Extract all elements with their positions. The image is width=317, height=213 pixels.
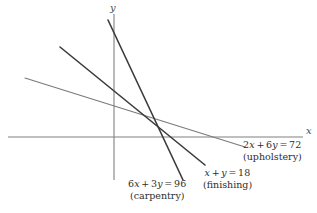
- annotation-upholstery: 2x+6y=72 (upholstery): [243, 139, 302, 163]
- finishing-name: (finishing): [203, 179, 252, 191]
- finishing-equals: =: [227, 167, 238, 178]
- y-axis-label: y: [110, 3, 116, 13]
- finishing-operator: +: [210, 167, 221, 178]
- carpentry-var-y: y: [157, 178, 163, 189]
- carpentry-name: (carpentry): [128, 190, 186, 202]
- annotation-carpentry: 6x+3y=96 (carpentry): [128, 178, 186, 202]
- carpentry-rhs: 96: [174, 178, 187, 189]
- constraint-line-finishing: [60, 47, 205, 165]
- upholstery-operator: +: [255, 139, 266, 150]
- carpentry-operator: +: [140, 178, 151, 189]
- constraint-line-carpentry: [108, 20, 183, 180]
- upholstery-name: (upholstery): [243, 151, 302, 163]
- upholstery-equals: =: [278, 139, 289, 150]
- upholstery-rhs: 72: [289, 139, 302, 150]
- carpentry-equals: =: [163, 178, 174, 189]
- x-axis-label: x: [306, 126, 312, 136]
- annotation-finishing: x+y=18 (finishing): [203, 167, 252, 191]
- finishing-rhs: 18: [238, 167, 251, 178]
- carpentry-var-x: x: [134, 178, 140, 189]
- constraint-graph-figure: x y 2x+6y=72 (upholstery) x+y=18 (finish…: [0, 0, 317, 213]
